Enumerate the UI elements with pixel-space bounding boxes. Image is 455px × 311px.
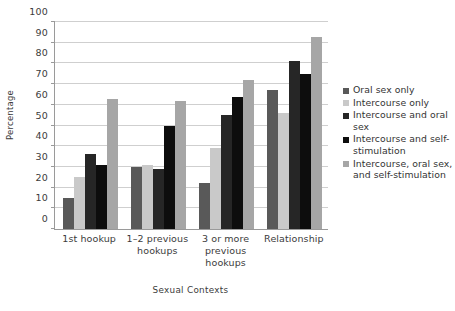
legend-item: Intercourse, oral sex, and self-stimulat… <box>343 158 453 181</box>
bar-group <box>124 22 192 229</box>
legend-item: Intercourse and oral sex <box>343 109 453 132</box>
y-axis-tick-label: 90 <box>36 26 49 37</box>
bar <box>267 90 278 229</box>
bar <box>221 115 232 229</box>
bar <box>289 61 300 229</box>
x-axis-tick-label: 1–2 previous hookups <box>123 233 191 269</box>
legend-swatch-icon <box>343 113 349 119</box>
y-axis-tick <box>51 187 55 188</box>
legend-label: Intercourse and self-stimulation <box>353 133 453 156</box>
y-axis-tick <box>51 207 55 208</box>
bars-layer <box>56 22 328 229</box>
y-axis-tick-label: 60 <box>36 88 49 99</box>
y-axis-title: Percentage <box>3 0 17 230</box>
y-axis-tick <box>51 104 55 105</box>
legend-swatch-icon <box>343 100 349 106</box>
bar <box>243 80 254 229</box>
bar-group <box>260 22 328 229</box>
bar <box>175 101 186 229</box>
y-axis-tick <box>51 42 55 43</box>
bar <box>85 154 96 229</box>
y-axis-tick-label: 80 <box>36 47 49 58</box>
y-axis-tick <box>51 62 55 63</box>
bar <box>199 183 210 229</box>
y-axis-tick-label: 10 <box>36 192 49 203</box>
y-axis-tick-label: 100 <box>29 6 48 17</box>
y-axis-tick <box>51 83 55 84</box>
y-axis-tick <box>51 125 55 126</box>
bar <box>300 74 311 229</box>
bar <box>232 97 243 229</box>
x-axis-title: Sexual Contexts <box>54 285 327 295</box>
y-axis-tick-label: 30 <box>36 150 49 161</box>
y-axis-tick-label: 40 <box>36 130 49 141</box>
bar <box>63 198 74 229</box>
legend-item: Intercourse only <box>343 97 453 109</box>
bar-group <box>192 22 260 229</box>
x-axis-tick-label: 1st hookup <box>55 233 123 269</box>
legend-label: Intercourse and oral sex <box>353 109 453 132</box>
legend-swatch-icon <box>343 161 349 167</box>
bar <box>107 99 118 229</box>
bar <box>278 113 289 229</box>
legend-label: Oral sex only <box>353 84 415 96</box>
bar <box>311 37 322 230</box>
legend-swatch-icon <box>343 88 349 94</box>
legend-item: Intercourse and self-stimulation <box>343 133 453 156</box>
y-axis-tick <box>51 228 55 229</box>
x-axis-tick-label: Relationship <box>260 233 328 269</box>
plot-area: 0102030405060708090100 <box>54 22 328 230</box>
x-axis-tick-label: 3 or more previous hookups <box>192 233 260 269</box>
legend-label: Intercourse, oral sex, and self-stimulat… <box>353 158 453 181</box>
bar <box>142 165 153 229</box>
y-axis-tick <box>51 166 55 167</box>
bar <box>96 165 107 229</box>
y-axis-tick-label: 50 <box>36 109 49 120</box>
legend-item: Oral sex only <box>343 84 453 96</box>
legend-swatch-icon <box>343 137 349 143</box>
bar-chart: Percentage 0102030405060708090100 1st ho… <box>0 0 455 311</box>
bar <box>131 167 142 229</box>
bar <box>164 126 175 230</box>
bar <box>210 148 221 229</box>
y-axis-tick <box>51 145 55 146</box>
bar-group <box>56 22 124 229</box>
bar <box>74 177 85 229</box>
y-axis-tick-label: 20 <box>36 171 49 182</box>
x-axis-tick-labels: 1st hookup1–2 previous hookups3 or more … <box>55 233 328 269</box>
y-axis-tick-label: 70 <box>36 68 49 79</box>
y-axis-tick <box>51 21 55 22</box>
y-axis-title-label: Percentage <box>5 90 15 140</box>
bar <box>153 169 164 229</box>
legend: Oral sex onlyIntercourse onlyIntercourse… <box>343 84 453 182</box>
legend-label: Intercourse only <box>353 97 429 109</box>
y-axis-tick-label: 0 <box>42 213 48 224</box>
